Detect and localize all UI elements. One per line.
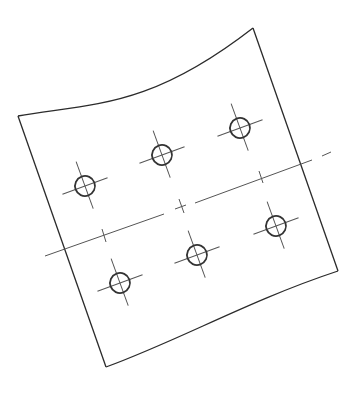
- plate-drawing: [0, 0, 359, 397]
- hole-3: [209, 95, 271, 158]
- plate-outline: [18, 28, 338, 367]
- centerline-center-dash: [175, 205, 186, 209]
- centerline-left-segment: [45, 214, 164, 256]
- holes: [54, 95, 307, 313]
- centerline-right-segment: [195, 160, 312, 203]
- hole-6: [245, 193, 307, 256]
- plate-left-edge: [18, 116, 106, 367]
- hole-4: [89, 250, 151, 313]
- centerline-tick-right: [259, 171, 263, 183]
- hole-2: [131, 122, 193, 185]
- centerline-dash-end: [322, 152, 331, 156]
- hole-1: [54, 153, 116, 216]
- drawing-canvas: [0, 0, 359, 397]
- centerline: [45, 152, 331, 256]
- plate-top-edge: [18, 28, 253, 116]
- plate-right-edge: [253, 28, 338, 271]
- hole-5: [166, 222, 228, 285]
- plate-bottom-edge: [106, 271, 338, 367]
